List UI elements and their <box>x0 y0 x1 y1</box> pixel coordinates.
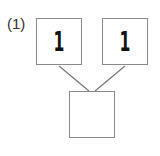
top-right-number: 1 <box>120 29 131 55</box>
answer-box[interactable] <box>69 91 115 138</box>
top-left-box: 1 <box>36 18 82 65</box>
top-left-number: 1 <box>54 29 65 55</box>
right-connector <box>95 66 125 91</box>
top-right-box: 1 <box>102 18 148 65</box>
left-connector <box>59 66 89 91</box>
